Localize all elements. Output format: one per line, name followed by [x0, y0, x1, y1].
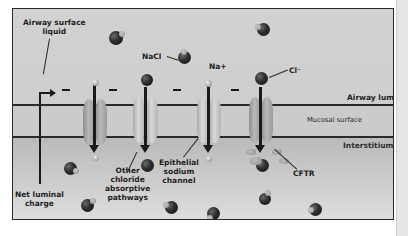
down-arrow-icon — [144, 87, 147, 147]
cftr-domain — [246, 149, 256, 155]
sodium-ion — [90, 198, 96, 204]
chloride-ion — [255, 72, 268, 85]
sodium-ion — [181, 49, 187, 55]
down-arrow-icon — [259, 87, 262, 147]
sodium-ion — [93, 155, 99, 161]
sodium-ion — [119, 31, 125, 37]
net-charge-arrowhead-icon — [50, 89, 56, 97]
page-edge — [396, 0, 408, 236]
interstitium-label: Interstitium — [343, 141, 393, 150]
sodium-ion — [308, 207, 314, 213]
channel-right-half — [146, 97, 158, 143]
na-plus-label: Na+ — [209, 62, 227, 71]
sodium-ion — [73, 168, 79, 174]
channel-right-half — [95, 99, 107, 145]
epithelial-sodium-channel-label: Epithelial sodium channel — [159, 158, 199, 185]
sodium-ion — [92, 79, 99, 86]
airway-surface-liquid-label: Airway surface liquid — [23, 18, 86, 36]
sodium-ion — [206, 156, 212, 162]
negative-charge-icon — [109, 89, 117, 91]
chloride-ion — [141, 74, 153, 86]
net-luminal-charge-label: Net luminal charge — [15, 190, 64, 208]
cftr-domain — [250, 157, 262, 165]
down-arrow-icon — [93, 85, 96, 147]
airway-lumen-label: Airway lumen — [347, 93, 394, 102]
channel-right-half — [209, 97, 221, 143]
negative-charge-icon — [231, 89, 239, 91]
sodium-ion — [265, 190, 271, 196]
sodium-ion — [205, 80, 212, 87]
cl-minus-label: Cl⁻ — [289, 66, 301, 75]
down-arrow-icon — [207, 85, 210, 147]
negative-charge-icon — [62, 89, 70, 91]
sodium-ion — [255, 24, 261, 30]
net-charge-vertical-line — [39, 92, 41, 184]
sodium-ion — [207, 215, 213, 220]
nacl-label: NaCl — [142, 52, 161, 61]
diagram-frame: Airway lumen Mucosal surface Interstitiu… — [12, 8, 394, 220]
cftr-label: CFTR — [293, 169, 315, 178]
cftr-right-half — [261, 97, 273, 143]
sodium-ion — [163, 202, 169, 208]
mucosal-surface-label: Mucosal surface — [307, 116, 362, 124]
negative-charge-icon — [173, 89, 181, 91]
